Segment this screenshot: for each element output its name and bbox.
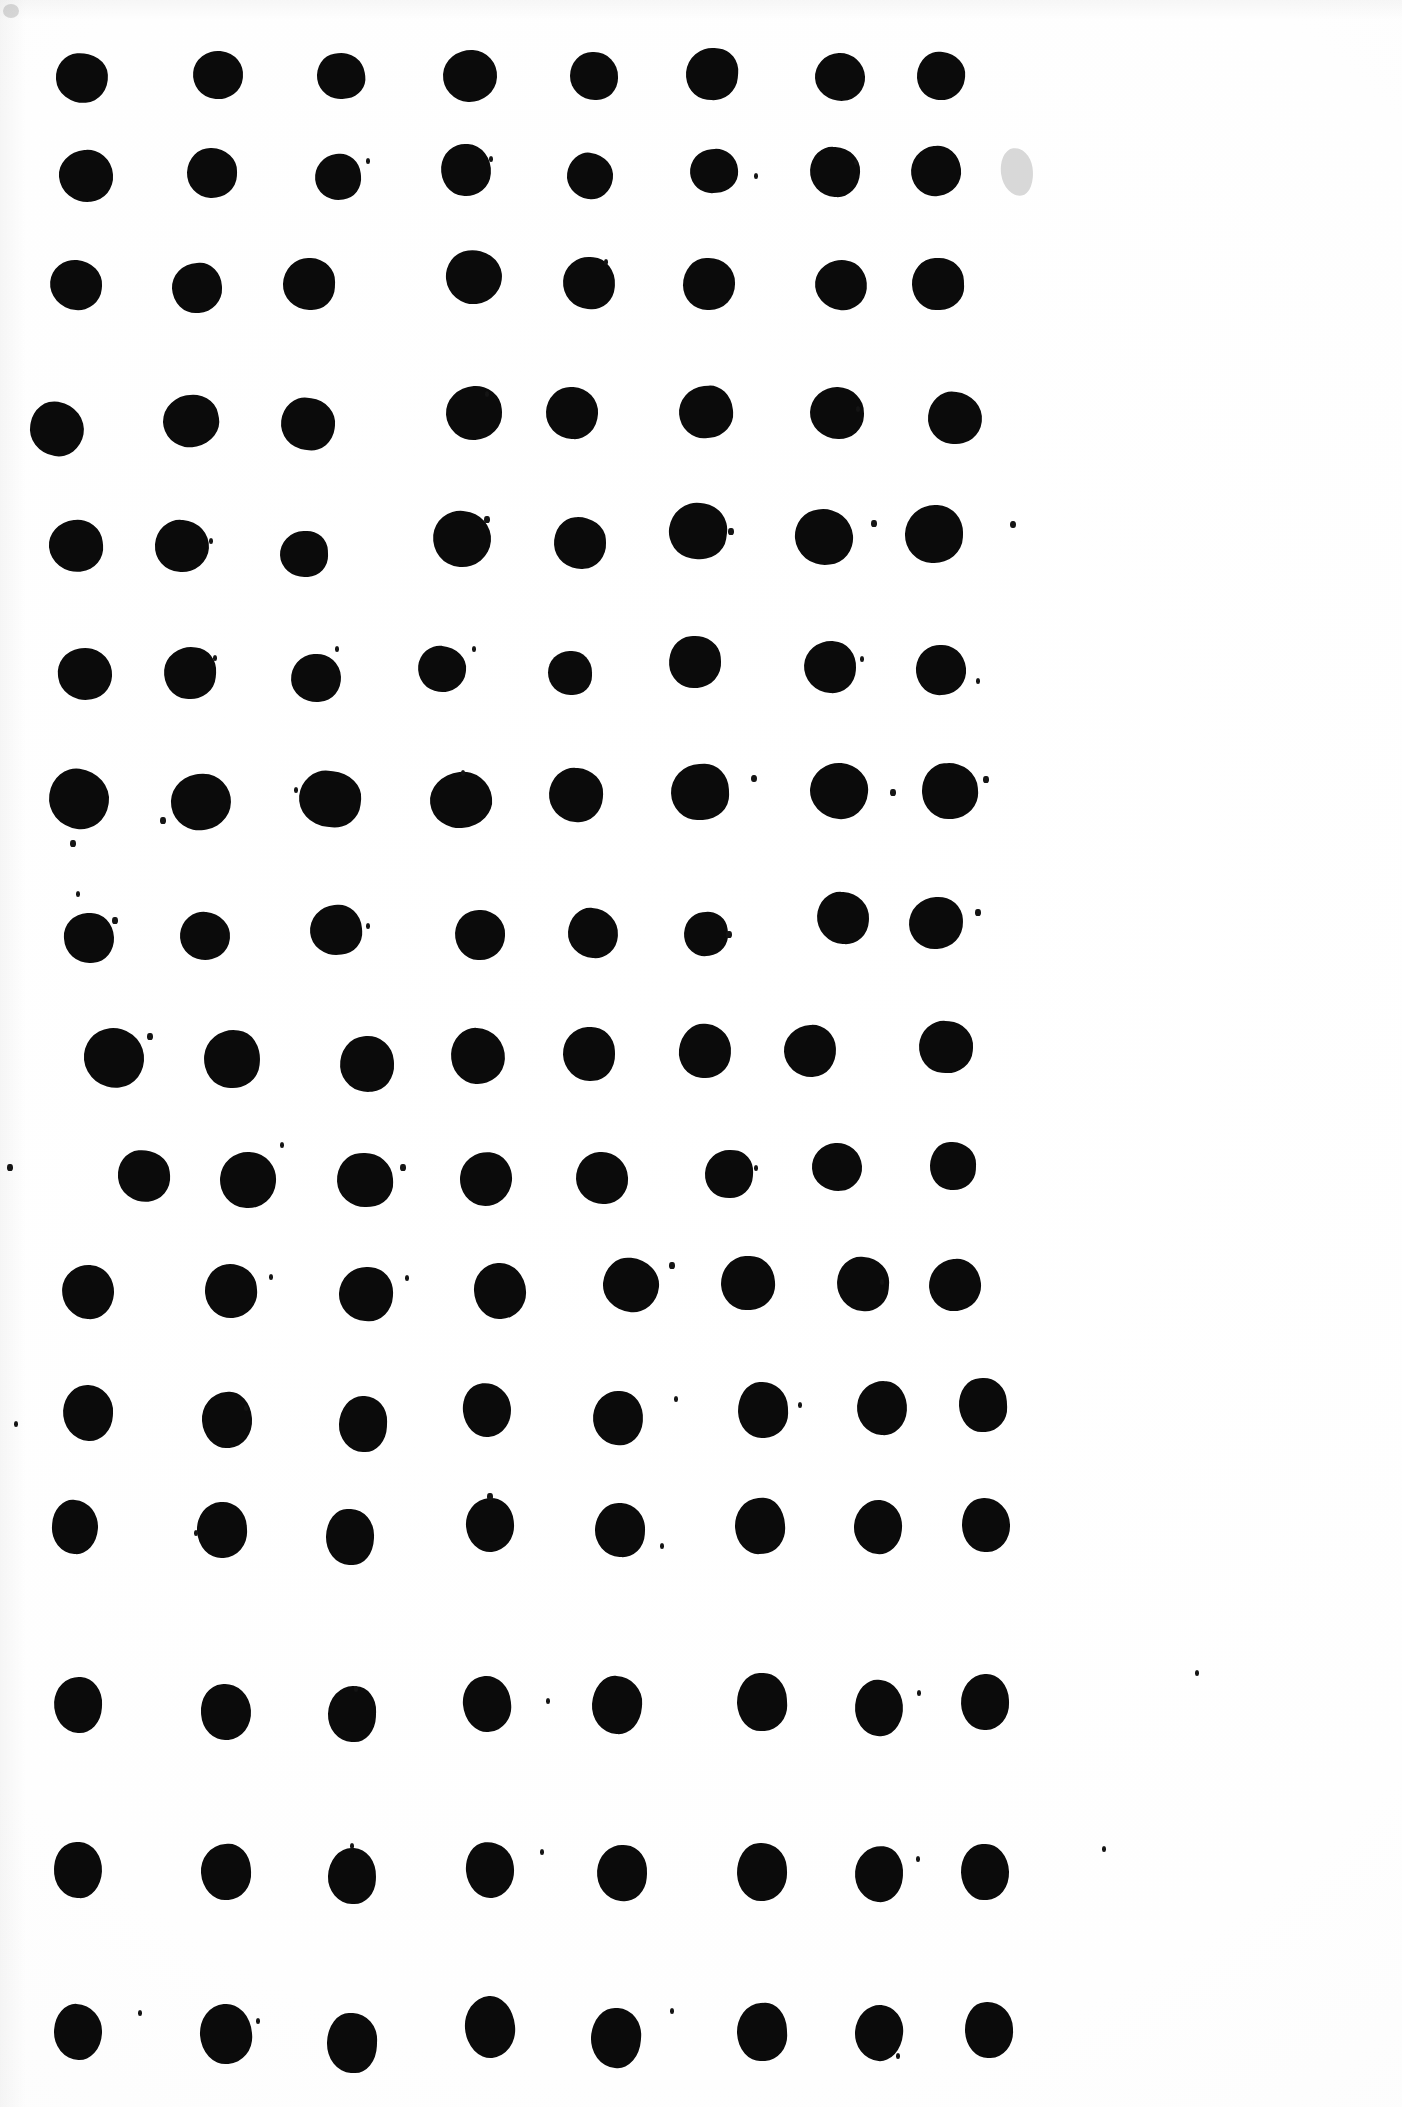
ink-dot <box>325 1508 375 1566</box>
ink-dot <box>462 1994 517 2060</box>
ink-dot <box>852 1498 905 1556</box>
ink-speck <box>213 655 218 661</box>
ink-dot <box>454 909 506 961</box>
ink-dot <box>158 390 224 453</box>
ink-speck <box>728 528 733 535</box>
ink-speck <box>209 538 214 544</box>
ink-dot <box>442 49 499 104</box>
ink-speck <box>405 1275 410 1281</box>
ink-dot <box>218 1150 278 1210</box>
ink-dot <box>566 906 619 959</box>
ink-dot <box>927 1257 983 1313</box>
ink-dot <box>564 150 616 202</box>
ink-dot <box>54 51 109 105</box>
ink-dot <box>914 643 969 698</box>
top-edge-shadow <box>0 0 1402 20</box>
ink-dot <box>813 257 870 312</box>
ink-dot <box>911 257 965 311</box>
ink-speck <box>871 520 876 527</box>
ink-dot <box>178 910 233 963</box>
ink-dot <box>590 1674 644 1735</box>
ink-speck <box>754 173 759 179</box>
ink-speck <box>856 406 860 412</box>
ink-dot <box>327 1685 377 1743</box>
ink-speck <box>70 840 75 847</box>
ink-speck <box>1195 1670 1199 1676</box>
ink-dot <box>667 634 723 690</box>
ink-dot <box>960 1843 1010 1901</box>
ink-speck <box>76 891 80 897</box>
ink-dot <box>809 386 865 440</box>
ink-dot <box>279 530 329 578</box>
ink-dot <box>278 395 338 453</box>
ink-dot <box>338 1034 396 1094</box>
ink-dot <box>444 384 504 442</box>
ink-dot <box>670 763 730 821</box>
ink-dot <box>793 507 856 568</box>
ink-dot <box>416 644 469 695</box>
ink-dot <box>45 765 113 833</box>
ink-dot <box>461 1674 514 1734</box>
ink-dot <box>296 768 364 830</box>
ink-dot <box>737 1381 789 1439</box>
ink-dot <box>57 148 115 205</box>
ink-speck <box>354 1686 358 1692</box>
ink-speck <box>674 1396 679 1402</box>
ink-dot <box>684 46 740 102</box>
ink-dot <box>855 1379 909 1436</box>
ink-dot <box>816 891 871 946</box>
ink-speck <box>484 516 489 523</box>
ink-dot <box>720 1255 777 1312</box>
ink-speck <box>160 817 165 824</box>
ink-speck <box>798 1402 803 1408</box>
ink-dot <box>336 1152 395 1209</box>
ink-dot <box>736 1842 789 1903</box>
ink-dot <box>809 146 862 199</box>
ink-dot <box>464 1496 517 1554</box>
ink-dot <box>46 517 105 574</box>
ink-speck <box>983 776 988 783</box>
ink-dot <box>464 1840 517 1900</box>
ink-dot <box>282 257 336 311</box>
ink-dot <box>53 2003 104 2061</box>
ink-dot <box>575 1151 629 1205</box>
ink-speck <box>916 1856 920 1862</box>
ink-dot <box>545 386 600 441</box>
ink-dot <box>553 516 608 571</box>
ink-dot <box>203 1262 260 1320</box>
ink-speck <box>880 1279 884 1285</box>
ink-speck <box>1010 521 1016 528</box>
ink-dot <box>914 49 967 102</box>
ink-dot <box>327 1847 377 1905</box>
ink-dot <box>458 1150 515 1208</box>
ink-dot <box>548 651 592 695</box>
ink-dot <box>53 1841 104 1899</box>
scanned-page <box>0 0 1402 2107</box>
ink-speck <box>604 259 608 265</box>
ink-dot <box>908 143 964 199</box>
ink-dot <box>736 1672 789 1733</box>
ink-dot <box>171 262 224 315</box>
ink-speck <box>335 646 339 652</box>
ink-dot <box>338 1395 388 1453</box>
left-edge-shadow <box>0 0 26 2107</box>
ink-dot <box>199 1842 253 1901</box>
ink-dot <box>167 769 236 835</box>
ink-dot <box>733 1496 787 1555</box>
ink-dot <box>191 49 246 102</box>
ink-speck <box>14 1421 18 1427</box>
ink-speck <box>890 789 895 796</box>
ink-dot <box>314 50 368 102</box>
ink-dot <box>783 1024 838 1079</box>
ink-dot <box>153 518 210 574</box>
ink-dot <box>48 258 104 312</box>
ink-speck <box>975 909 980 916</box>
ink-dot <box>589 2006 643 2069</box>
ink-dot <box>591 1389 646 1447</box>
ink-speck <box>147 1033 152 1040</box>
ink-dot <box>677 384 735 441</box>
gray-smudge <box>998 146 1036 198</box>
ink-speck <box>487 1493 492 1500</box>
ink-dot <box>904 504 964 564</box>
ink-speck <box>7 1164 12 1171</box>
